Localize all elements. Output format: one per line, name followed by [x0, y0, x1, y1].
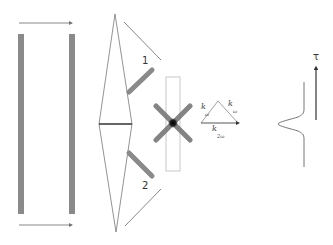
pulse-bar-left — [18, 34, 24, 214]
k-omega-right-label: k — [228, 99, 233, 108]
k-omega-right-subscript: ω — [233, 108, 237, 114]
pulse-bar-right — [69, 34, 75, 214]
beam-2 — [129, 153, 152, 176]
autocorrelator-diagram: 1 2 k ω k ω k 2ω τ — [0, 0, 333, 245]
k-2omega-subscript: 2ω — [216, 133, 224, 139]
beam-1-label: 1 — [142, 55, 148, 66]
diamond-prism — [99, 14, 132, 232]
focus-spot — [168, 118, 178, 128]
beam-2-label: 2 — [142, 180, 148, 191]
tau-axis-label: τ — [313, 51, 319, 62]
lower-guide-line — [125, 189, 161, 226]
k-2omega-label: k — [212, 124, 217, 133]
k-omega-left-label: k — [201, 102, 206, 111]
beam-1 — [129, 70, 152, 92]
autocorrelation-trace — [278, 82, 304, 167]
k-omega-left-subscript: ω — [205, 111, 209, 117]
